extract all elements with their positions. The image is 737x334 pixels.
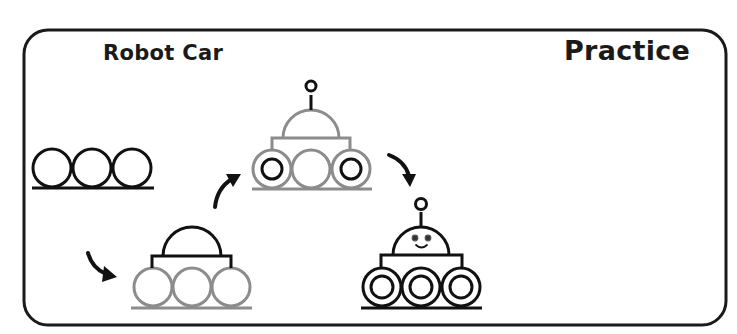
- body-plate: [152, 256, 231, 268]
- wheel-icon: [442, 268, 480, 306]
- inner-ring-icon: [371, 276, 393, 298]
- inner-ring-icon: [450, 276, 472, 298]
- wheel-icon: [332, 150, 370, 188]
- wheel-icon: [113, 149, 151, 187]
- wheel-icon: [363, 268, 401, 306]
- worksheet-frame: [24, 30, 726, 325]
- dome-icon: [163, 227, 221, 256]
- wheel-icon: [253, 150, 291, 188]
- drawing-worksheet: Robot Car Practice: [0, 0, 737, 334]
- wheel-icon: [134, 268, 172, 306]
- arrow-step3-to-step4-icon: [389, 155, 416, 187]
- antenna-ball-icon: [306, 81, 316, 91]
- mode-label: Practice: [564, 35, 690, 66]
- inner-ring-icon: [341, 159, 361, 179]
- robot-face-icon: [412, 235, 431, 247]
- step-2-robot: [131, 227, 252, 308]
- wheel-icon: [73, 149, 111, 187]
- step-3-robot: [252, 81, 372, 189]
- step-4-robot: [361, 199, 482, 309]
- inner-ring-icon: [410, 276, 432, 298]
- arrow-step1-to-step2-icon: [88, 253, 117, 282]
- worksheet-title: Robot Car: [103, 41, 223, 65]
- dome-icon: [393, 227, 449, 255]
- body-plate: [272, 138, 350, 150]
- wheel-icon: [173, 268, 211, 306]
- arrow-step2-to-step3-icon: [215, 174, 241, 207]
- wheel-icon: [212, 268, 250, 306]
- wheel-icon: [402, 268, 440, 306]
- antenna-ball-icon: [416, 199, 427, 210]
- wheel-icon: [292, 150, 330, 188]
- wheel-icon: [33, 149, 71, 187]
- dome-icon: [283, 110, 339, 138]
- body-plate: [381, 255, 462, 268]
- step-1-wheels: [32, 149, 154, 188]
- inner-ring-icon: [262, 159, 282, 179]
